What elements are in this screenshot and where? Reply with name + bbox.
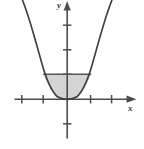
y-axis-label: y (57, 1, 61, 10)
y-axis-arrowhead (64, 1, 71, 11)
x-axis-label: x (128, 104, 133, 113)
math-figure-parabola: y x (0, 0, 144, 149)
plot-canvas (0, 0, 144, 149)
x-axis-arrowhead (127, 96, 137, 103)
